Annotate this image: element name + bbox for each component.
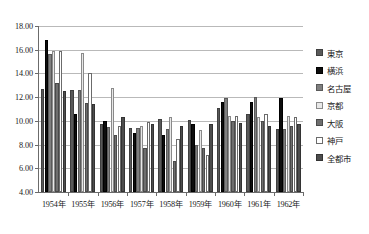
bar	[151, 124, 154, 192]
bar	[239, 123, 242, 192]
legend-swatch-icon	[316, 102, 323, 109]
x-axis-tick	[274, 192, 275, 196]
y-axis-label: 18.00	[15, 22, 33, 31]
x-axis-tick	[127, 192, 128, 196]
x-axis-tick	[186, 192, 187, 196]
bar-group: 1959年	[186, 26, 215, 192]
plot-area: 18.0016.0014.0012.0010.008.006.004.00 19…	[38, 26, 303, 193]
bar-group: 1954年	[39, 26, 68, 192]
y-axis-tick	[35, 192, 39, 193]
legend-label: 横浜	[327, 64, 343, 76]
y-axis-label: 8.00	[19, 140, 33, 149]
bar	[297, 124, 300, 192]
x-axis-tick	[68, 192, 69, 196]
legend-item[interactable]: 東京	[316, 44, 369, 62]
x-axis-label: 1961年	[244, 197, 273, 209]
x-axis-label: 1962年	[274, 197, 303, 209]
legend-label: 大阪	[327, 117, 343, 129]
legend-label: 全都市	[327, 152, 350, 164]
y-axis-label: 14.00	[15, 69, 33, 78]
legend-item[interactable]: 大阪	[316, 114, 369, 132]
legend-label: 名古屋	[327, 82, 350, 94]
bar	[209, 124, 212, 192]
bar-group: 1961年	[244, 26, 273, 192]
legend-item[interactable]: 神戸	[316, 132, 369, 150]
legend-label: 東京	[327, 47, 343, 59]
bar-group: 1955年	[68, 26, 97, 192]
y-axis-label: 12.00	[15, 93, 33, 102]
legend-item[interactable]: 京都	[316, 97, 369, 115]
bar	[63, 91, 66, 192]
legend-swatch-icon	[316, 49, 323, 56]
bar	[92, 104, 95, 192]
x-axis-tick	[215, 192, 216, 196]
legend-swatch-icon	[316, 67, 323, 74]
x-axis-label: 1954年	[39, 197, 68, 209]
bar-group: 1956年	[98, 26, 127, 192]
x-axis-label: 1959年	[186, 197, 215, 209]
legend-label: 神戸	[327, 134, 343, 146]
legend-swatch-icon	[316, 137, 323, 144]
legend-item[interactable]: 横浜	[316, 62, 369, 80]
x-axis-label: 1955年	[68, 197, 97, 209]
bar-group: 1957年	[127, 26, 156, 192]
x-axis-tick	[156, 192, 157, 196]
legend-swatch-icon	[316, 119, 323, 126]
x-axis-label: 1960年	[215, 197, 244, 209]
legend-item[interactable]: 名古屋	[316, 79, 369, 97]
x-axis-label: 1957年	[127, 197, 156, 209]
y-axis-label: 16.00	[15, 45, 33, 54]
bar-group: 1958年	[156, 26, 185, 192]
chart-legend: 東京横浜名古屋京都大阪神戸全都市	[316, 44, 369, 167]
y-axis-label: 4.00	[19, 188, 33, 197]
x-axis-label: 1958年	[156, 197, 185, 209]
legend-item[interactable]: 全都市	[316, 149, 369, 167]
x-axis-tick	[98, 192, 99, 196]
bar	[121, 117, 124, 192]
x-axis-tick	[303, 192, 304, 196]
legend-swatch-icon	[316, 84, 323, 91]
x-axis-label: 1956年	[98, 197, 127, 209]
legend-swatch-icon	[316, 154, 323, 161]
bar-group: 1962年	[274, 26, 303, 192]
bar	[268, 126, 271, 192]
bar-group: 1960年	[215, 26, 244, 192]
y-axis-label: 10.00	[15, 116, 33, 125]
bar-chart: 18.0016.0014.0012.0010.008.006.004.00 19…	[0, 0, 369, 234]
legend-label: 京都	[327, 99, 343, 111]
bar	[180, 126, 183, 192]
y-axis-label: 6.00	[19, 164, 33, 173]
x-axis-tick	[244, 192, 245, 196]
